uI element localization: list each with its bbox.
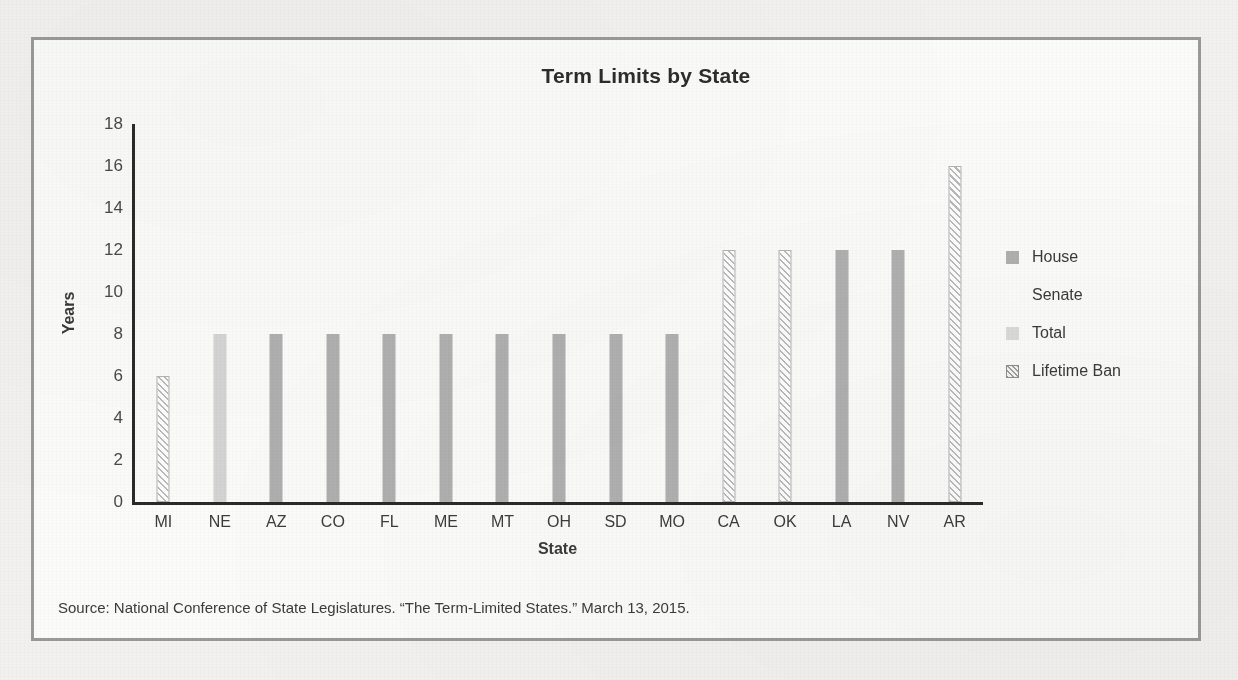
chart-legend: HouseSenateTotalLifetime Ban — [1006, 238, 1186, 390]
bar-group: LA — [813, 124, 870, 502]
y-tick-label: 18 — [104, 114, 123, 134]
legend-item-lifetime[interactable]: Lifetime Ban — [1006, 352, 1186, 390]
bars-layer: MINEAZCOFLMEMTOHSDMOCAOKLANVAR — [135, 124, 980, 502]
legend-item-senate[interactable]: Senate — [1006, 276, 1186, 314]
bar-ca — [722, 250, 735, 502]
legend-swatch-house-icon — [1006, 251, 1019, 264]
chart-title: Term Limits by State — [34, 64, 1198, 88]
x-tick-label-la: LA — [832, 513, 852, 531]
bar-fl — [383, 334, 396, 502]
bar-group: FL — [361, 124, 418, 502]
bar-ne — [213, 334, 226, 502]
y-tick-label: 8 — [114, 324, 123, 344]
bar-sd — [609, 334, 622, 502]
y-axis-title-text: Years — [60, 292, 78, 335]
bar-group: OH — [531, 124, 588, 502]
bar-mt — [496, 334, 509, 502]
legend-swatch-lifetime-icon — [1006, 365, 1019, 378]
bar-group: OK — [757, 124, 814, 502]
bar-nv — [892, 250, 905, 502]
legend-swatch-senate-icon — [1006, 289, 1019, 302]
x-tick-label-oh: OH — [547, 513, 571, 531]
x-tick-label-mi: MI — [154, 513, 172, 531]
bar-group: AR — [926, 124, 983, 502]
bar-la — [835, 250, 848, 502]
bar-ok — [779, 250, 792, 502]
x-tick-label-co: CO — [321, 513, 345, 531]
x-tick-label-ca: CA — [717, 513, 739, 531]
bar-mi — [157, 376, 170, 502]
y-tick-label: 6 — [114, 366, 123, 386]
legend-swatch-total-icon — [1006, 327, 1019, 340]
x-axis-line — [132, 502, 983, 505]
bar-group: NV — [870, 124, 927, 502]
plot-area: 181614121086420 MINEAZCOFLMEMTOHSDMOCAOK… — [132, 124, 980, 502]
y-tick-label: 0 — [114, 492, 123, 512]
bar-group: SD — [587, 124, 644, 502]
y-tick-label: 16 — [104, 156, 123, 176]
y-axis-title: Years — [58, 124, 80, 502]
y-tick-label: 12 — [104, 240, 123, 260]
legend-label: Senate — [1032, 286, 1083, 304]
x-tick-label-nv: NV — [887, 513, 909, 531]
x-tick-label-ok: OK — [774, 513, 797, 531]
legend-item-total[interactable]: Total — [1006, 314, 1186, 352]
bar-group: CA — [700, 124, 757, 502]
x-tick-label-sd: SD — [604, 513, 626, 531]
bar-mo — [666, 334, 679, 502]
bar-group: MO — [644, 124, 701, 502]
legend-label: House — [1032, 248, 1078, 266]
bar-group: MT — [474, 124, 531, 502]
figure-inner: Term Limits by State Years 1816141210864… — [34, 40, 1198, 638]
bar-oh — [552, 334, 565, 502]
legend-label: Total — [1032, 324, 1066, 342]
legend-item-house[interactable]: House — [1006, 238, 1186, 276]
figure-frame: Term Limits by State Years 1816141210864… — [31, 37, 1201, 641]
y-tick-label: 4 — [114, 408, 123, 428]
bar-me — [439, 334, 452, 502]
y-tick-label: 14 — [104, 198, 123, 218]
x-tick-label-ne: NE — [209, 513, 231, 531]
bar-group: MI — [135, 124, 192, 502]
legend-label: Lifetime Ban — [1032, 362, 1121, 380]
y-tick-label: 2 — [114, 450, 123, 470]
x-tick-label-az: AZ — [266, 513, 286, 531]
source-note: Source: National Conference of State Leg… — [58, 599, 690, 616]
x-tick-label-mo: MO — [659, 513, 685, 531]
x-axis-title: State — [132, 540, 983, 558]
bar-ar — [948, 166, 961, 502]
bar-group: AZ — [248, 124, 305, 502]
bar-group: CO — [305, 124, 362, 502]
x-tick-label-mt: MT — [491, 513, 514, 531]
bar-co — [326, 334, 339, 502]
bar-group: NE — [192, 124, 249, 502]
bar-az — [270, 334, 283, 502]
bar-group: ME — [418, 124, 475, 502]
x-tick-label-me: ME — [434, 513, 458, 531]
x-tick-label-ar: AR — [944, 513, 966, 531]
x-tick-label-fl: FL — [380, 513, 399, 531]
y-tick-label: 10 — [104, 282, 123, 302]
